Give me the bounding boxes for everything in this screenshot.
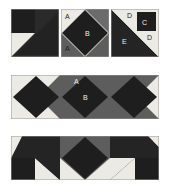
quilt-block-diagram: A B A D C E D (0, 0, 170, 192)
strip-1-graphic (11, 75, 159, 119)
strip-2-graphic (11, 136, 159, 180)
unit-corner-triangle (11, 9, 59, 57)
unit-1-graphic (11, 9, 59, 57)
middle-row-strip: A B (11, 75, 159, 119)
patch-dark-square-top-left (11, 9, 35, 33)
seg-bottom-right (110, 136, 159, 180)
seg-bottom-left (11, 136, 60, 180)
seg-bottom-center (60, 136, 110, 180)
unit-square-in-a-square: A B A (61, 9, 109, 57)
unit-diagonal-corner: D C E D (111, 9, 159, 57)
unit-3-graphic (111, 9, 159, 57)
patch-corner-square-C (137, 12, 156, 31)
unit-2-graphic (61, 9, 109, 57)
bottom-row-strip (11, 136, 159, 180)
